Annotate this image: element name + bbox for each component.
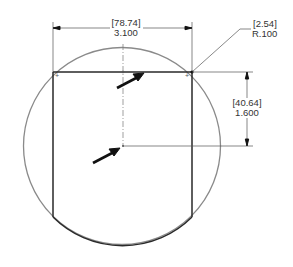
corner-mark-right: +	[185, 72, 189, 79]
square-outline	[53, 72, 192, 246]
width-arrowhead-left	[53, 26, 60, 29]
height-arrowhead-bottom	[245, 139, 248, 146]
center-point	[122, 71, 125, 74]
radius-leader-line	[192, 29, 251, 72]
width-imperial-label: 3.100	[114, 27, 138, 38]
height-arrowhead-top	[245, 72, 248, 79]
engineering-drawing: + + [78.74] 3.100 [2.54] R.100 [40.64] 1…	[0, 0, 293, 267]
height-imperial-label: 1.600	[235, 107, 259, 118]
arrow-to-top-edge-icon	[117, 73, 144, 88]
width-arrowhead-right	[185, 26, 192, 29]
arrow-to-center-icon	[93, 148, 120, 163]
radius-imperial-label: R.100	[252, 28, 277, 39]
corner-mark-left: +	[55, 72, 59, 79]
